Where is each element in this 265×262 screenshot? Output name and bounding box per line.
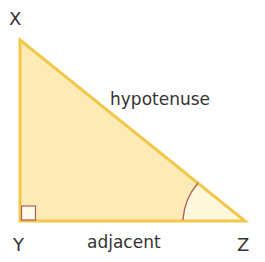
vertex-label-z: Z — [237, 234, 249, 255]
triangle-diagram: X Y Z hypotenuse adjacent — [0, 0, 265, 262]
vertex-label-y: Y — [12, 234, 25, 255]
side-label-adjacent: adjacent — [87, 232, 161, 252]
vertex-label-x: X — [9, 8, 21, 29]
right-angle-marker — [22, 206, 36, 220]
side-label-hypotenuse: hypotenuse — [110, 89, 210, 109]
